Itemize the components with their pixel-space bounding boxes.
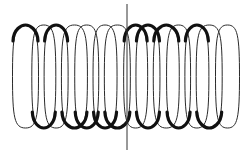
coil-loop: [13, 25, 39, 128]
coil-diagram: [0, 0, 252, 154]
coil-drawing: [0, 0, 252, 154]
coil-loop: [216, 25, 240, 128]
coil-loops: [13, 25, 240, 128]
